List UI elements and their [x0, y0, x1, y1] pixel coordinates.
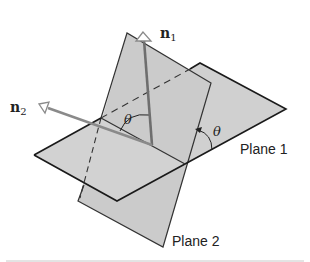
label-n1: n1 [160, 25, 177, 43]
normal-n2-arrowhead [39, 102, 49, 113]
label-n2: n2 [10, 99, 27, 117]
label-theta-normals: θ [124, 112, 132, 127]
two-planes-diagram: n1 n2 θ θ Plane 1 Plane 2 [0, 0, 310, 262]
label-plane-2: Plane 2 [172, 233, 220, 249]
label-theta-planes: θ [213, 124, 221, 139]
label-plane-1: Plane 1 [240, 141, 288, 157]
normal-n1-arrowhead [136, 32, 151, 41]
